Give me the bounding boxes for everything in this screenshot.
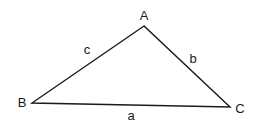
side-label-c: c	[84, 42, 91, 57]
triangle-svg: A B C a b c	[0, 0, 254, 125]
side-label-b: b	[189, 51, 196, 66]
triangle-shape	[32, 26, 230, 107]
triangle-diagram: A B C a b c	[0, 0, 254, 125]
vertex-label-c: C	[235, 101, 244, 116]
vertex-label-b: B	[18, 95, 27, 110]
side-label-a: a	[127, 108, 135, 123]
vertex-label-a: A	[140, 8, 149, 23]
